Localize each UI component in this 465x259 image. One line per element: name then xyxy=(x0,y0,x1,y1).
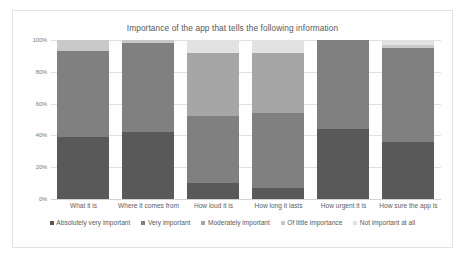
legend-label: Of little importance xyxy=(287,219,342,226)
bar-segment[interactable] xyxy=(382,142,434,199)
bar-group xyxy=(51,40,441,199)
stacked-bar[interactable] xyxy=(382,40,434,199)
x-axis-category-label: How loud it is xyxy=(182,202,245,209)
bar-segment[interactable] xyxy=(382,48,434,142)
bar-segment[interactable] xyxy=(317,40,369,129)
chart-title: Importance of the app that tells the fol… xyxy=(13,23,452,33)
legend-label: Very important xyxy=(148,219,191,226)
bar-segment[interactable] xyxy=(187,53,239,117)
legend-swatch-icon xyxy=(201,221,205,225)
bar-segment[interactable] xyxy=(252,113,304,188)
bar-segment[interactable] xyxy=(187,183,239,199)
legend-label: Moderately important xyxy=(208,219,270,226)
y-axis-tick-label: 0% xyxy=(39,196,47,202)
legend-swatch-icon xyxy=(281,221,285,225)
bar-segment[interactable] xyxy=(187,40,239,53)
y-axis-tick-label: 100% xyxy=(33,37,47,43)
bar-segment[interactable] xyxy=(122,132,174,199)
x-axis-category-label: What it is xyxy=(52,202,115,209)
bar-column xyxy=(182,40,245,199)
legend-item[interactable]: Moderately important xyxy=(201,219,269,226)
plot-area: 0%20%40%60%80%100% xyxy=(51,40,441,199)
x-axis-category-label: How urgent it is xyxy=(312,202,375,209)
legend-item[interactable]: Not important at all xyxy=(353,219,415,226)
stacked-bar[interactable] xyxy=(317,40,369,199)
stacked-bar[interactable] xyxy=(122,40,174,199)
legend-swatch-icon xyxy=(50,221,54,225)
y-axis-tick-label: 60% xyxy=(36,101,47,107)
y-axis-tick-label: 80% xyxy=(36,69,47,75)
x-axis-labels: What it isWhere it comes fromHow loud it… xyxy=(51,202,441,209)
bar-segment[interactable] xyxy=(252,188,304,199)
legend-item[interactable]: Very important xyxy=(141,219,190,226)
y-axis-tick-label: 40% xyxy=(36,132,47,138)
stacked-bar[interactable] xyxy=(57,40,109,199)
bar-segment[interactable] xyxy=(252,40,304,53)
chart-legend: Absolutely very importantVery importantM… xyxy=(13,219,452,226)
gridline-0%: 0% xyxy=(51,199,441,200)
bar-column xyxy=(247,40,310,199)
bar-segment[interactable] xyxy=(57,137,109,199)
stacked-bar[interactable] xyxy=(187,40,239,199)
x-axis-category-label: Where it comes from xyxy=(117,202,180,209)
x-axis-category-label: How sure the app is xyxy=(377,202,440,209)
bar-segment[interactable] xyxy=(317,129,369,199)
legend-swatch-icon xyxy=(141,221,145,225)
bar-segment[interactable] xyxy=(187,116,239,183)
x-axis-category-label: How long it lasts xyxy=(247,202,310,209)
bar-segment[interactable] xyxy=(57,51,109,137)
bar-segment[interactable] xyxy=(57,40,109,51)
stacked-bar[interactable] xyxy=(252,40,304,199)
legend-label: Absolutely very important xyxy=(56,219,130,226)
chart-card: Importance of the app that tells the fol… xyxy=(12,10,453,248)
bar-column xyxy=(52,40,115,199)
bar-column xyxy=(312,40,375,199)
bar-segment[interactable] xyxy=(252,53,304,113)
bar-column xyxy=(377,40,440,199)
bar-segment[interactable] xyxy=(122,43,174,132)
legend-label: Not important at all xyxy=(360,219,415,226)
legend-swatch-icon xyxy=(353,221,357,225)
legend-item[interactable]: Absolutely very important xyxy=(50,219,131,226)
bar-column xyxy=(117,40,180,199)
legend-item[interactable]: Of little importance xyxy=(281,219,342,226)
y-axis-tick-label: 20% xyxy=(36,164,47,170)
